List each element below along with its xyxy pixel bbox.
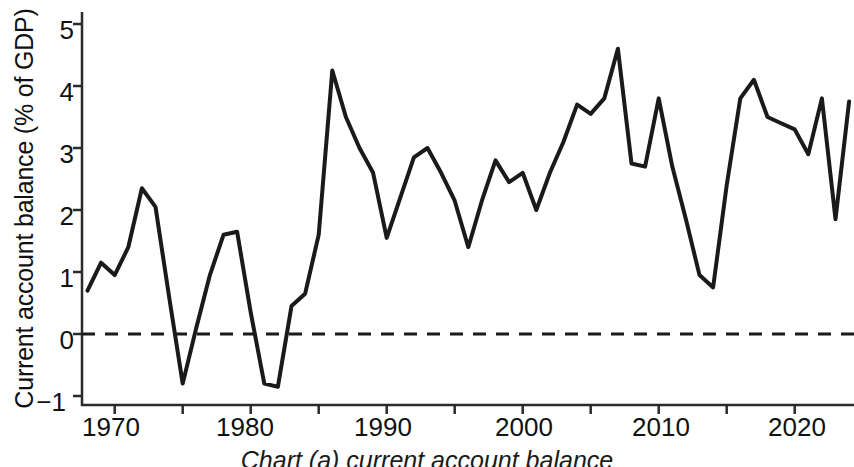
chart-figure: Current account balance (% of GDP) 5 4 3…	[0, 0, 854, 467]
axis-spines	[82, 12, 854, 405]
series-line-current-account-balance	[88, 49, 850, 387]
x-axis-ticks	[115, 405, 795, 414]
y-axis-ticks	[73, 24, 82, 396]
figure-caption: Chart (a) current account balance	[0, 446, 854, 467]
plot-area	[0, 0, 854, 467]
